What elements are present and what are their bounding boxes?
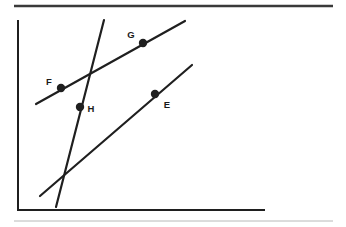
geometry-diagram: FGHE <box>0 0 346 227</box>
point-h-label: H <box>88 103 95 114</box>
geometry-canvas: FGHE <box>0 0 346 227</box>
point-g-label: G <box>127 29 134 40</box>
point-f-label: F <box>46 76 52 87</box>
point-f-dot <box>57 84 65 92</box>
point-e-label: E <box>164 99 170 110</box>
point-e-dot <box>151 90 159 98</box>
point-h-dot <box>76 103 84 111</box>
diagram-background <box>0 0 346 227</box>
point-g-dot <box>139 39 147 47</box>
